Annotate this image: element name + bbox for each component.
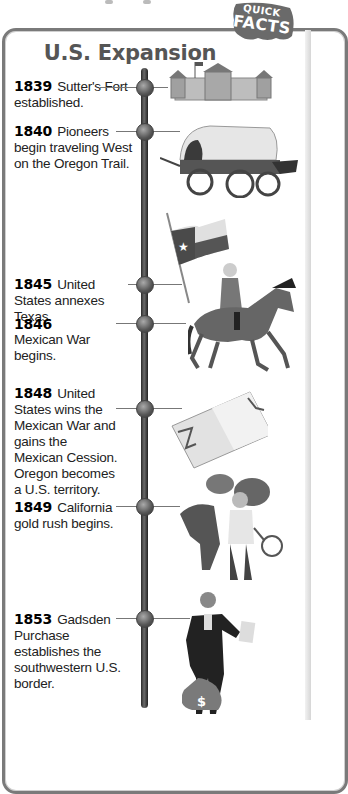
event-text: United States wins the Mexican War and g… — [14, 386, 117, 497]
timeline-event-1848: 1848United States wins the Mexican War a… — [14, 385, 118, 498]
timeline-event-1839: 1839Sutter's Fort established. — [14, 78, 134, 111]
soldier-on-horse-icon — [188, 258, 303, 378]
timeline-node — [136, 315, 154, 333]
event-year: 1853 — [14, 611, 52, 627]
timeline-node — [136, 498, 154, 516]
event-year: 1840 — [14, 123, 52, 139]
treaty-document-icon — [168, 388, 268, 470]
leader-line — [152, 506, 180, 507]
timeline-event-1849: 1849California gold rush begins. — [14, 499, 126, 532]
page-edge — [305, 30, 311, 720]
covered-wagon-icon — [160, 118, 300, 198]
svg-text:$: $ — [197, 694, 206, 709]
cropped-text-fragment — [95, 0, 165, 6]
event-year: 1849 — [14, 499, 52, 515]
leader-line — [152, 323, 186, 324]
man-with-money-bag-icon: $ — [182, 588, 262, 716]
timeline-node — [136, 276, 154, 294]
timeline-node — [136, 79, 154, 97]
timeline-node — [136, 123, 154, 141]
fort-icon — [165, 60, 275, 106]
timeline-event-1853: 1853Gadsden Purchase establishes the sou… — [14, 611, 138, 692]
timeline-node — [136, 610, 154, 628]
event-year: 1839 — [14, 78, 52, 94]
event-year: 1845 — [14, 276, 52, 292]
event-text: Mexican War begins. — [14, 332, 90, 363]
quick-facts-badge: QUICK FACTS — [228, 2, 296, 42]
event-year: 1848 — [14, 385, 52, 401]
prospector-with-mule-icon — [180, 470, 290, 582]
event-year: 1846 — [14, 316, 129, 332]
leader-line — [100, 87, 140, 88]
timeline-node — [136, 400, 154, 418]
svg-text:★: ★ — [178, 240, 189, 254]
